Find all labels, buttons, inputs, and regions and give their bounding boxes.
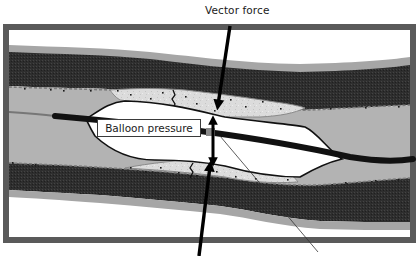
vector-force-label: Vector force xyxy=(205,4,269,16)
balloon-angioplasty-diagram xyxy=(0,0,420,256)
balloon-pressure-label: Balloon pressure xyxy=(97,119,201,137)
